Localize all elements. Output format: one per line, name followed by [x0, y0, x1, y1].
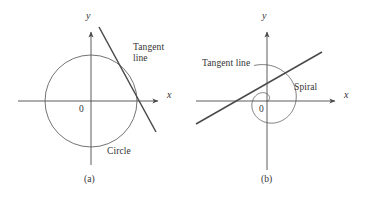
figure-drawing: [0, 0, 365, 202]
panel-a-y-axis-label: y: [86, 11, 91, 22]
panel-a-tangent-line-label: Tangent line: [133, 42, 164, 63]
panel-b-spiral-label: Spiral: [294, 82, 317, 93]
panel-b-origin-label: 0: [259, 104, 264, 115]
panel-b-graphics: [196, 32, 335, 170]
panel-b-y-axis-label: y: [262, 11, 267, 22]
panel-b-tangent-line-label: Tangent line: [202, 58, 250, 69]
panel-a-caption: (a): [84, 174, 95, 185]
panel-a-origin-label: 0: [79, 104, 84, 115]
panel-a-x-axis-label: x: [167, 90, 172, 101]
panel-a-circle-label: Circle: [107, 146, 131, 157]
figure-container: y x 0 Tangent line Circle (a) y x 0 Tang…: [0, 0, 365, 202]
panel-b-caption: (b): [261, 174, 272, 185]
panel-b-x-axis-label: x: [344, 90, 349, 101]
